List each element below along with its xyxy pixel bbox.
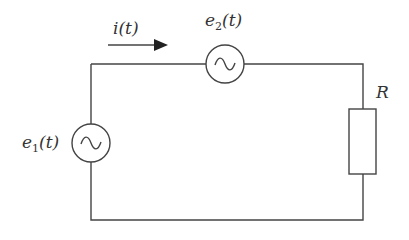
- current-arrow-head-icon: [154, 39, 168, 51]
- current-label: i(t): [113, 20, 139, 37]
- source-e1-label: e1(t): [22, 134, 59, 154]
- wire-top-right: [244, 64, 363, 109]
- source-e2-base: e: [205, 10, 215, 30]
- source-e1-base: e: [22, 132, 32, 152]
- wire-left-bottom: [91, 162, 363, 220]
- source-e1-arg: (t): [39, 132, 59, 152]
- sine-glyph-e1: [81, 137, 101, 149]
- source-e2-arg: (t): [222, 10, 242, 30]
- source-e2-sub: 2: [215, 20, 222, 33]
- source-e2-label: e2(t): [205, 12, 242, 32]
- sine-glyph-e2: [215, 58, 235, 70]
- source-e1-sub: 1: [32, 142, 39, 155]
- circuit-diagram: i(t) e2(t) e1(t) R: [0, 0, 409, 240]
- resistor-icon: [349, 109, 376, 174]
- circuit-svg: [0, 0, 409, 240]
- resistor-label: R: [376, 84, 389, 101]
